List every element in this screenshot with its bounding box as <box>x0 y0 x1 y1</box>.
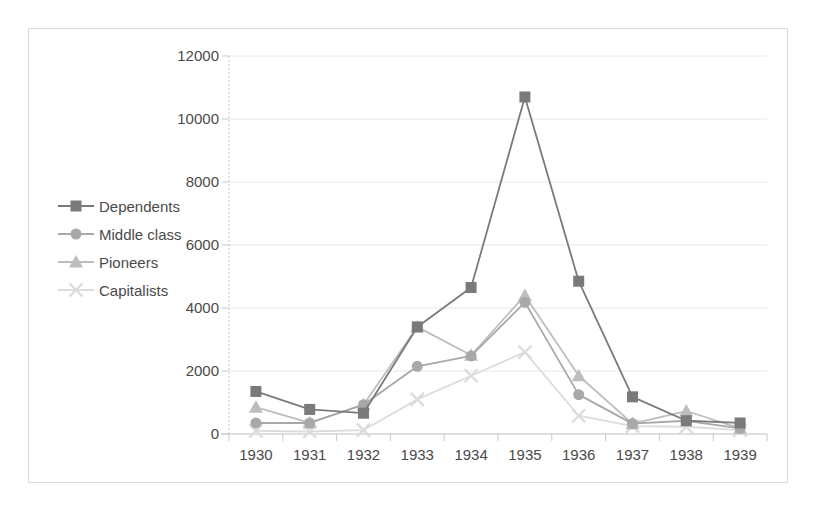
legend-swatch-square-icon <box>57 197 95 215</box>
legend-item-dependents[interactable]: Dependents <box>57 197 180 215</box>
data-point <box>250 417 261 428</box>
data-point <box>304 404 315 415</box>
data-point <box>411 393 424 406</box>
legend-label: Dependents <box>99 198 180 215</box>
legend-swatch-circle-icon <box>57 225 95 243</box>
legend-label: Middle class <box>99 226 182 243</box>
data-point <box>412 321 423 332</box>
data-point <box>518 346 531 359</box>
legend-item-middle-class[interactable]: Middle class <box>57 225 182 243</box>
chart-frame: 0200040006000800010000120001930193119321… <box>28 28 788 483</box>
data-point <box>466 350 477 361</box>
y-axis-tick-label: 8000 <box>149 173 219 190</box>
data-point <box>627 391 638 402</box>
y-axis-tick-label: 4000 <box>149 299 219 316</box>
x-axis-tick-label: 1934 <box>444 446 498 463</box>
data-point <box>573 389 584 400</box>
y-axis-tick-label: 0 <box>149 425 219 442</box>
x-axis-tick-label: 1938 <box>659 446 713 463</box>
data-point <box>358 408 369 419</box>
data-point <box>681 415 692 426</box>
x-axis-tick-label: 1939 <box>713 446 767 463</box>
y-axis-tick-label: 12000 <box>149 47 219 64</box>
data-point <box>573 276 584 287</box>
legend-label: Capitalists <box>99 282 168 299</box>
legend-swatch-triangle-icon <box>57 253 95 271</box>
legend-label: Pioneers <box>99 254 158 271</box>
data-point <box>250 386 261 397</box>
y-axis-tick-label: 10000 <box>149 110 219 127</box>
data-point <box>412 361 423 372</box>
series-pioneers <box>249 288 747 434</box>
data-point <box>249 400 263 413</box>
y-axis-tick-label: 2000 <box>149 362 219 379</box>
x-axis-tick-label: 1937 <box>606 446 660 463</box>
x-axis-tick-label: 1931 <box>283 446 337 463</box>
x-axis-tick-label: 1930 <box>229 446 283 463</box>
data-point <box>519 297 530 308</box>
data-point <box>304 417 315 428</box>
legend-item-capitalists[interactable]: Capitalists <box>57 281 168 299</box>
x-axis-tick-label: 1936 <box>552 446 606 463</box>
data-point <box>466 282 477 293</box>
x-axis-tick-label: 1932 <box>337 446 391 463</box>
x-axis-tick-label: 1935 <box>498 446 552 463</box>
legend-item-pioneers[interactable]: Pioneers <box>57 253 158 271</box>
data-point <box>519 91 530 102</box>
series-capitalists <box>249 346 746 438</box>
legend-swatch-cross-icon <box>57 281 95 299</box>
data-point <box>679 404 693 417</box>
data-point <box>735 417 746 428</box>
series-dependents <box>250 91 745 428</box>
x-axis-tick-label: 1933 <box>390 446 444 463</box>
data-point <box>627 418 638 429</box>
